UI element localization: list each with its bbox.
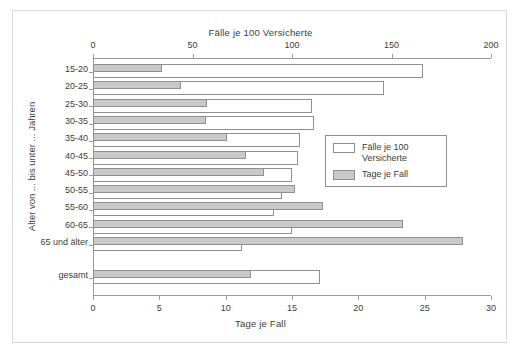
bar-tage-je-fall — [93, 99, 207, 107]
axis-tick-label: 150 — [384, 40, 399, 50]
axis-tick-label: 100 — [284, 40, 299, 50]
axis-tick — [392, 54, 393, 58]
bar-row: 20-25 — [93, 81, 491, 96]
chart-frame: Fälle je 100 Versicherte Tage je Fall Al… — [12, 10, 507, 343]
legend-swatch-white-icon — [333, 143, 355, 153]
top-axis-title: Fälle je 100 Versicherte — [13, 27, 508, 38]
axis-tick — [491, 296, 492, 300]
axis-tick — [193, 54, 194, 58]
axis-tick — [93, 54, 94, 58]
legend-item-tage: Tage je Fall — [333, 169, 439, 180]
category-label: 50-55 — [65, 185, 88, 195]
bar-row: 55-60 — [93, 202, 491, 217]
top-axis-line — [93, 58, 491, 59]
axis-tick-label: 0 — [90, 303, 95, 313]
bar-row: 60-65 — [93, 220, 491, 235]
axis-tick-label: 50 — [187, 40, 197, 50]
bar-tage-je-fall — [93, 237, 463, 245]
bar-row: gesamt — [93, 270, 491, 285]
axis-tick — [425, 296, 426, 300]
bar-tage-je-fall — [93, 168, 264, 176]
axis-tick — [292, 54, 293, 58]
bar-tage-je-fall — [93, 116, 206, 124]
axis-tick — [292, 296, 293, 300]
bar-tage-je-fall — [93, 151, 246, 159]
y-axis-title: Alter von ... bis unter ... Jahren — [26, 87, 37, 247]
category-label: 45-50 — [65, 168, 88, 178]
legend-item-faelle: Fälle je 100 Versicherte — [333, 142, 439, 164]
axis-tick — [491, 54, 492, 58]
category-label: 40-45 — [65, 151, 88, 161]
category-label: 65 und älter — [40, 237, 88, 247]
category-label: 25-30 — [65, 99, 88, 109]
category-label: gesamt — [58, 270, 88, 280]
axis-tick-label: 30 — [486, 303, 496, 313]
category-label: 60-65 — [65, 220, 88, 230]
axis-tick-label: 10 — [221, 303, 231, 313]
category-label: 35-40 — [65, 133, 88, 143]
category-label: 20-25 — [65, 81, 88, 91]
bar-tage-je-fall — [93, 270, 251, 278]
bar-row: 30-35 — [93, 116, 491, 131]
bar-row: 15-20 — [93, 64, 491, 79]
bottom-axis-title: Tage je Fall — [13, 318, 508, 329]
axis-tick — [93, 296, 94, 300]
bar-tage-je-fall — [93, 81, 181, 89]
axis-tick-label: 200 — [483, 40, 498, 50]
legend-label-faelle: Fälle je 100 Versicherte — [362, 142, 439, 164]
axis-tick-label: 20 — [353, 303, 363, 313]
axis-tick-label: 0 — [90, 40, 95, 50]
legend-swatch-gray-icon — [333, 170, 355, 180]
bar-tage-je-fall — [93, 64, 162, 72]
plot-area: 050100150200 051015202530 15-2020-2525-3… — [93, 58, 491, 296]
axis-tick — [226, 296, 227, 300]
axis-tick — [358, 296, 359, 300]
category-label: 30-35 — [65, 116, 88, 126]
bar-row: 50-55 — [93, 185, 491, 200]
bar-row: 65 und älter — [93, 237, 491, 252]
category-label: 55-60 — [65, 202, 88, 212]
bar-tage-je-fall — [93, 133, 227, 141]
axis-tick-label: 25 — [420, 303, 430, 313]
bar-tage-je-fall — [93, 220, 403, 228]
legend: Fälle je 100 Versicherte Tage je Fall — [325, 135, 447, 187]
bar-row: 25-30 — [93, 99, 491, 114]
bar-tage-je-fall — [93, 202, 323, 210]
legend-label-tage: Tage je Fall — [362, 169, 408, 180]
axis-tick — [159, 296, 160, 300]
axis-tick-label: 15 — [287, 303, 297, 313]
category-label: 15-20 — [65, 64, 88, 74]
axis-tick-label: 5 — [157, 303, 162, 313]
bar-tage-je-fall — [93, 185, 295, 193]
